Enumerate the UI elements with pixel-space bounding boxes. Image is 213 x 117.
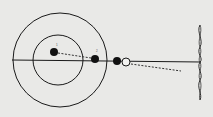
orbital-diagram: 1 2: [0, 0, 213, 117]
body-1-label: 1: [56, 43, 58, 47]
path-1-to-2: [58, 53, 91, 58]
body-1: [50, 48, 58, 56]
body-3: [113, 57, 121, 65]
body-2-label: 2: [96, 49, 98, 53]
body-4-hollow: [122, 58, 130, 66]
body-2: [91, 55, 99, 63]
diagram-svg: 1 2: [0, 0, 213, 117]
path-hollow-outward: [131, 64, 181, 71]
